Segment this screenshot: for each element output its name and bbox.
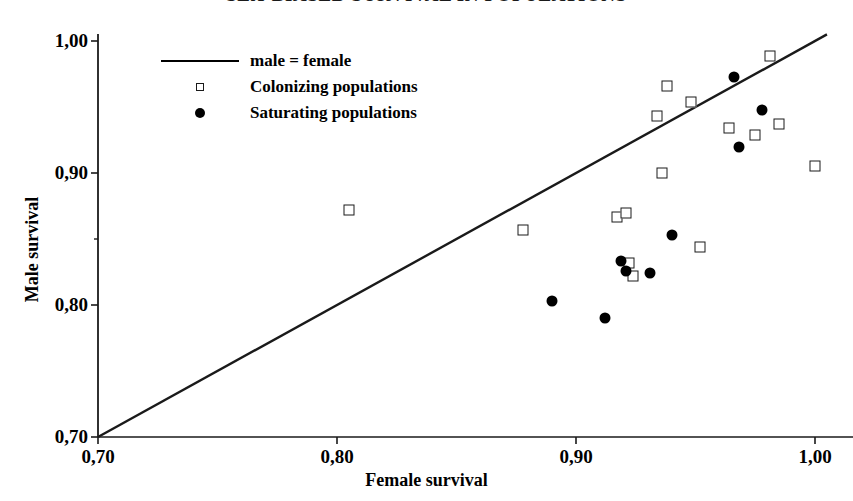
- x-tick-label-0.70: 0,70: [81, 446, 114, 468]
- data-point-colonizing-12: [750, 129, 761, 140]
- data-point-colonizing-15: [810, 161, 821, 172]
- data-point-colonizing-9: [685, 96, 696, 107]
- data-point-colonizing-1: [518, 224, 529, 235]
- data-point-colonizing-8: [661, 80, 672, 91]
- legend-label-saturating: Saturating populations: [240, 103, 417, 123]
- legend-label-reference-line: male = female: [240, 51, 351, 71]
- data-point-saturating-5: [666, 230, 677, 241]
- data-point-colonizing-0: [343, 204, 354, 215]
- y-tick-label-1.00: 1,00: [26, 30, 88, 52]
- data-point-colonizing-10: [695, 241, 706, 252]
- legend-line-icon: [160, 60, 240, 62]
- legend-entry-saturating: Saturating populations: [160, 100, 418, 126]
- data-point-saturating-0: [547, 296, 558, 307]
- plot-canvas: [0, 0, 853, 501]
- data-point-colonizing-3: [621, 207, 632, 218]
- data-point-saturating-1: [599, 313, 610, 324]
- open-square-icon: [160, 83, 240, 91]
- data-point-saturating-7: [733, 141, 744, 152]
- filled-circle-icon: [160, 108, 240, 118]
- data-point-saturating-4: [645, 268, 656, 279]
- x-tick-label-1.00: 1,00: [798, 446, 831, 468]
- legend-entry-reference-line: male = female: [160, 48, 418, 74]
- data-point-colonizing-14: [774, 119, 785, 130]
- legend-entry-colonizing: Colonizing populations: [160, 74, 418, 100]
- data-point-colonizing-6: [652, 111, 663, 122]
- data-point-saturating-8: [757, 104, 768, 115]
- data-point-colonizing-7: [657, 168, 668, 179]
- data-point-colonizing-11: [723, 123, 734, 134]
- x-tick-label-0.80: 0,80: [320, 446, 353, 468]
- data-point-saturating-3: [621, 265, 632, 276]
- x-tick-label-0.90: 0,90: [559, 446, 592, 468]
- data-point-saturating-6: [728, 71, 739, 82]
- legend-label-colonizing: Colonizing populations: [240, 77, 418, 97]
- y-tick-label-0.70: 0,70: [26, 426, 88, 448]
- chart-legend: male = female Colonizing populations Sat…: [160, 48, 418, 126]
- scatter-plot-figure: SEX-BIASED SURVIVAL IN POPULATIONS 1,00 …: [0, 0, 853, 501]
- x-axis-title: Female survival: [0, 470, 853, 491]
- data-point-colonizing-13: [764, 50, 775, 61]
- y-axis-title: Male survival: [22, 170, 43, 330]
